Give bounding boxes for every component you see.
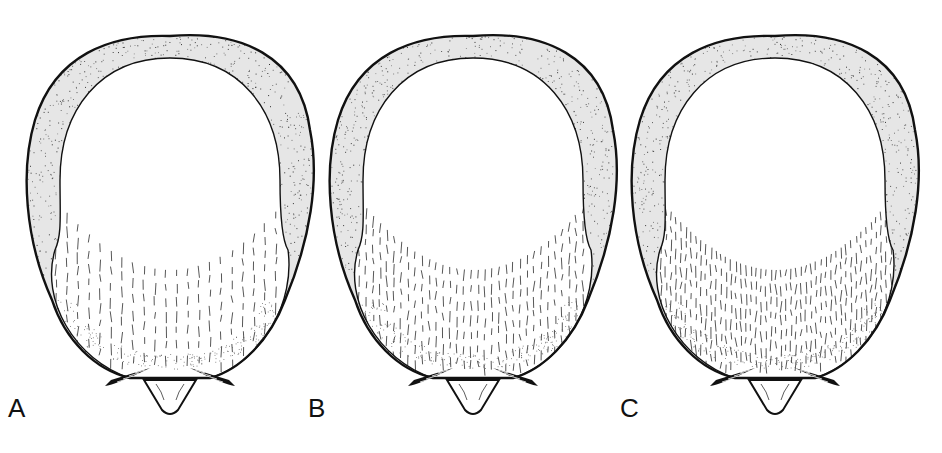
panel-a: A	[10, 0, 330, 453]
panel-label-b: B	[308, 395, 325, 421]
panel-label-c: C	[620, 395, 639, 421]
panel-c: C	[615, 0, 935, 453]
specimen-drawing-b	[313, 0, 633, 453]
specimen-drawing-c	[615, 0, 935, 453]
specimen-drawing-a	[10, 0, 330, 453]
panel-b: B	[313, 0, 633, 453]
figure: A B C	[0, 0, 942, 453]
panel-label-a: A	[8, 395, 25, 421]
